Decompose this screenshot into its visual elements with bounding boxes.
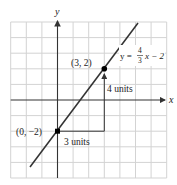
equation-lhs: y = bbox=[120, 51, 132, 61]
point-b-label: (3, 2) bbox=[71, 58, 92, 69]
coordinate-plane: y x (0, −2) (3, 2) 3 units 4 units y = 4… bbox=[0, 0, 177, 185]
equation-denominator: 3 bbox=[138, 56, 142, 65]
equation-numerator: 4 bbox=[138, 46, 142, 55]
run-label: 3 units bbox=[64, 137, 90, 147]
point-3-2 bbox=[102, 66, 108, 72]
x-axis-label: x bbox=[168, 94, 174, 105]
point-0-neg2 bbox=[55, 129, 60, 134]
y-axis-label: y bbox=[54, 6, 60, 17]
point-a-label: (0, −2) bbox=[16, 127, 42, 138]
equation-rhs: x − 2 bbox=[144, 51, 165, 61]
equation-label: y = 4 3 x − 2 bbox=[119, 45, 165, 66]
graph-canvas: y x (0, −2) (3, 2) 3 units 4 units y = 4… bbox=[0, 0, 177, 185]
rise-label: 4 units bbox=[107, 84, 133, 94]
